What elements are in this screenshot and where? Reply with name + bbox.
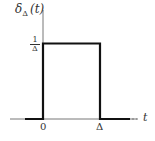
x-tick-0: 0 bbox=[40, 121, 46, 132]
x-axis-label: t bbox=[143, 111, 147, 124]
pulse-plot bbox=[0, 0, 155, 141]
y-axis-label: δΔ(t) bbox=[15, 2, 44, 18]
pulse-diagram: δΔ(t) 1 Δ 0 Δ t bbox=[0, 0, 155, 141]
pulse-line bbox=[25, 44, 130, 120]
x-tick-delta: Δ bbox=[96, 121, 103, 132]
height-label: 1 Δ bbox=[30, 36, 40, 53]
